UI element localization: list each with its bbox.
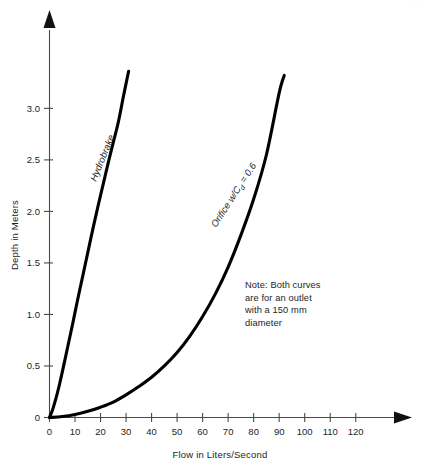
series-label-hydrobrake: Hydrobrake bbox=[88, 133, 117, 183]
chart-note-line-1: Note: Both curves bbox=[245, 279, 321, 292]
x-tick-label: 80 bbox=[248, 426, 259, 437]
x-tick-label: 90 bbox=[274, 426, 285, 437]
y-tick-label: 1.5 bbox=[27, 257, 40, 268]
x-tick-label: 30 bbox=[121, 426, 132, 437]
y-axis-title: Depth in Meters bbox=[9, 200, 20, 270]
x-tick-label: 50 bbox=[172, 426, 183, 437]
x-tick-label: 60 bbox=[197, 426, 208, 437]
series-paths bbox=[50, 71, 285, 417]
series-curve bbox=[50, 75, 285, 417]
x-tick-label: 70 bbox=[223, 426, 234, 437]
figure-root: 00.51.01.52.02.53.0 01020304050607080901… bbox=[0, 0, 424, 474]
x-tick-label: 100 bbox=[297, 426, 313, 437]
x-tick-label: 10 bbox=[70, 426, 81, 437]
y-tick-label: 2.5 bbox=[27, 154, 40, 165]
chart-canvas: 00.51.01.52.02.53.0 01020304050607080901… bbox=[0, 0, 424, 474]
x-axis-tick-labels: 0102030405060708090100110120 bbox=[47, 426, 364, 437]
y-tick-label: 0.5 bbox=[27, 360, 40, 371]
y-axis-arrowhead bbox=[44, 10, 56, 28]
x-tick-label: 120 bbox=[348, 426, 364, 437]
y-tick-label: 3.0 bbox=[27, 103, 40, 114]
x-axis-title: Flow in Liters/Second bbox=[172, 449, 267, 460]
y-axis-tick-labels: 00.51.01.52.02.53.0 bbox=[27, 103, 40, 423]
x-tick-label: 20 bbox=[95, 426, 106, 437]
chart-note-line-3: with a 150 mm bbox=[245, 304, 321, 317]
chart-note-line-2: are for an outlet bbox=[245, 292, 321, 305]
x-tick-label: 110 bbox=[323, 426, 338, 437]
axes-group bbox=[44, 10, 413, 424]
y-tick-label: 0 bbox=[35, 412, 40, 423]
y-tick-label: 2.0 bbox=[27, 206, 40, 217]
series-curve bbox=[50, 71, 129, 417]
y-tick-label: 1.0 bbox=[27, 309, 40, 320]
y-axis-ticks bbox=[44, 108, 53, 417]
x-axis-arrowhead bbox=[394, 412, 412, 424]
series-label-orifice: Orifice w/Cd = 0.6 bbox=[208, 160, 259, 230]
chart-note-line-4: diameter bbox=[245, 317, 321, 330]
page-corner-mark: ... bbox=[414, 2, 420, 8]
chart-note: Note: Both curves are for an outlet with… bbox=[245, 279, 321, 329]
x-tick-label: 40 bbox=[146, 426, 157, 437]
x-tick-label: 0 bbox=[47, 426, 52, 437]
